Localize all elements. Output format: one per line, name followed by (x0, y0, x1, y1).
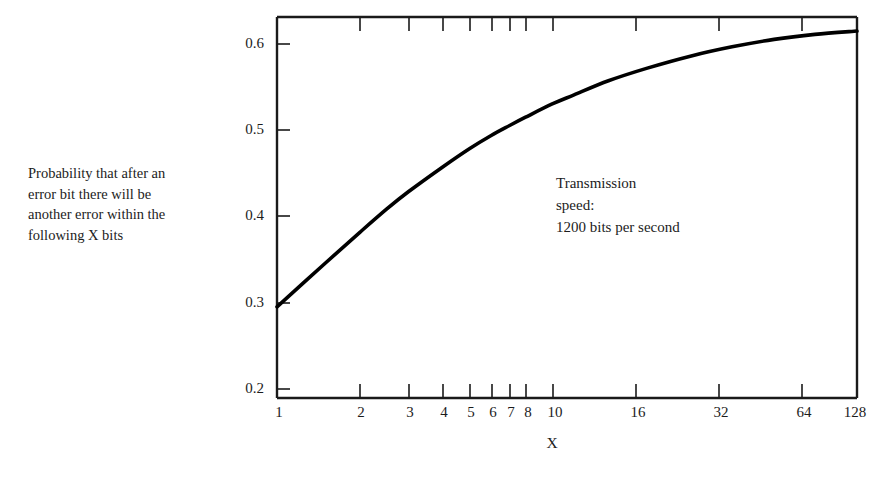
x-tick-label-1: 1 (275, 404, 283, 421)
y-tick-label-0.6: 0.6 (218, 35, 264, 52)
x-tick-label-4: 4 (440, 404, 448, 421)
y-tick-label-0.2: 0.2 (218, 380, 264, 397)
figure-root: Probability that after an error bit ther… (0, 0, 884, 478)
x-tick-label-64: 64 (797, 404, 812, 421)
x-tick-label-32: 32 (714, 404, 729, 421)
data-series-line (277, 31, 857, 307)
y-tick-label-0.3: 0.3 (218, 294, 264, 311)
x-tick-label-5: 5 (467, 404, 475, 421)
y-tick-label-0.4: 0.4 (218, 207, 264, 224)
x-tick-label-6: 6 (489, 404, 497, 421)
x-tick-label-8: 8 (524, 404, 532, 421)
x-tick-label-3: 3 (406, 404, 414, 421)
x-tick-label-128: 128 (844, 404, 867, 421)
x-tick-label-10: 10 (548, 404, 563, 421)
x-axis-title: X (546, 434, 557, 452)
y-axis-ticks (277, 44, 290, 389)
x-tick-label-7: 7 (507, 404, 515, 421)
x-axis-ticks (360, 17, 802, 398)
x-tick-label-2: 2 (357, 404, 365, 421)
axis-frame (277, 17, 857, 398)
x-tick-label-16: 16 (631, 404, 646, 421)
y-tick-label-0.5: 0.5 (218, 121, 264, 138)
